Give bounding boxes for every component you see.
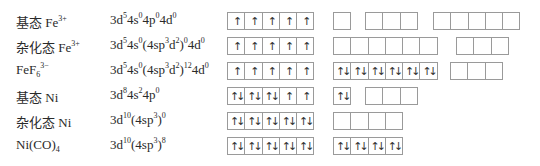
electron-configuration: 3d10(4sp3)0 (110, 112, 166, 128)
single-electron-orbital: ↑ (227, 62, 245, 80)
empty-orbital (456, 37, 474, 55)
orbital-group (333, 37, 438, 55)
paired-electrons-orbital: ↑↓ (350, 62, 368, 80)
species-subscript: 4 (56, 145, 60, 154)
paired-electrons-orbital: ↑↓ (368, 62, 386, 80)
orbital-row: 杂化态 Ni3d10(4sp3)0↑↓↑↓↑↓↑↓↑↓ (0, 109, 540, 134)
empty-orbital (485, 62, 503, 80)
orbital-row: 基态 Fe3+3d54s04p04d0↑↑↑↑↑ (0, 9, 540, 34)
species-label: 杂化态 Ni (16, 112, 71, 131)
electron-configuration: 3d54s0(4sp3d2)04d0 (110, 37, 205, 53)
orbital-group (365, 87, 418, 105)
orbital-group (456, 37, 509, 55)
paired-electrons-orbital: ↑↓ (262, 112, 280, 130)
single-electron-orbital: ↑ (279, 12, 297, 30)
single-electron-orbital: ↑ (244, 37, 262, 55)
empty-orbital (368, 37, 386, 55)
species-label: Ni(CO)4 (16, 137, 60, 153)
paired-electrons-orbital: ↑↓ (385, 62, 403, 80)
empty-orbital (473, 37, 491, 55)
empty-orbital (382, 87, 400, 105)
paired-electrons-orbital: ↑↓ (262, 137, 280, 155)
paired-electrons-orbital: ↑↓ (333, 62, 351, 80)
empty-orbital (385, 112, 403, 130)
electron-configuration: 3d54s0(4sp3d2)124d0 (110, 62, 209, 78)
empty-orbital (385, 37, 403, 55)
single-electron-orbital: ↑ (296, 87, 314, 105)
orbital-row: 杂化态 Fe3+3d54s0(4sp3d2)04d0↑↑↑↑↑ (0, 34, 540, 59)
paired-electrons-orbital: ↑↓ (262, 87, 280, 105)
paired-electrons-orbital: ↑↓ (279, 112, 297, 130)
empty-orbital (419, 37, 437, 55)
paired-electrons-orbital: ↑↓ (350, 137, 368, 155)
single-electron-orbital: ↑ (262, 37, 280, 55)
empty-orbital (485, 12, 503, 30)
paired-electrons-orbital: ↑↓ (296, 112, 314, 130)
single-electron-orbital: ↑ (227, 12, 245, 30)
paired-electrons-orbital: ↑↓ (227, 87, 245, 105)
paired-electrons-orbital: ↑↓ (227, 137, 245, 155)
single-electron-orbital: ↑ (279, 37, 297, 55)
single-electron-orbital: ↑ (227, 37, 245, 55)
paired-electrons-orbital: ↑↓ (402, 62, 420, 80)
paired-electrons-orbital: ↑↓ (227, 112, 245, 130)
electron-configuration: 3d10(4sp3)8 (110, 137, 166, 153)
paired-electrons-orbital: ↑↓ (296, 137, 314, 155)
single-electron-orbital: ↑ (262, 12, 280, 30)
empty-orbital (350, 112, 368, 130)
orbital-group: ↑↑↑↑↑ (227, 12, 314, 30)
orbital-group: ↑↓↑↓↑↓↑↑ (227, 87, 314, 105)
empty-orbital (450, 62, 468, 80)
single-electron-orbital: ↑ (279, 87, 297, 105)
orbital-group: ↑↓↑↓↑↓↑↓↑↓↑↓ (333, 62, 438, 80)
paired-electrons-orbital: ↑↓ (279, 137, 297, 155)
paired-electrons-orbital: ↑↓ (333, 87, 351, 105)
empty-orbital (433, 12, 451, 30)
single-electron-orbital: ↑ (244, 12, 262, 30)
single-electron-orbital: ↑ (244, 62, 262, 80)
species-charge: 3+ (58, 14, 67, 23)
orbital-group: ↑↑↑↑↑ (227, 37, 314, 55)
orbital-group (365, 12, 418, 30)
paired-electrons-orbital: ↑↓ (368, 137, 386, 155)
paired-electrons-orbital: ↑↓ (333, 137, 351, 155)
orbital-group: ↑↓↑↓↑↓↑↓↑↓ (227, 112, 314, 130)
electron-configuration: 3d84s24p0 (110, 87, 160, 103)
empty-orbital (333, 12, 351, 30)
orbital-group: ↑↓↑↓↑↓↑↓ (333, 137, 403, 155)
single-electron-orbital: ↑ (296, 37, 314, 55)
orbital-group (333, 12, 351, 30)
paired-electrons-orbital: ↑↓ (244, 87, 262, 105)
single-electron-orbital: ↑ (296, 12, 314, 30)
paired-electrons-orbital: ↑↓ (385, 137, 403, 155)
species-label: 基态 Ni (16, 87, 58, 106)
empty-orbital (350, 37, 368, 55)
orbital-row: 基态 Ni3d84s24p0↑↓↑↓↑↓↑↑↑↓ (0, 84, 540, 109)
single-electron-orbital: ↑ (296, 62, 314, 80)
species-charge: 3− (40, 61, 49, 70)
empty-orbital (400, 87, 418, 105)
orbital-group (333, 112, 403, 130)
empty-orbital (402, 37, 420, 55)
species-label: 杂化态 Fe3+ (16, 37, 80, 56)
species-name: 基态 Ni (16, 90, 58, 105)
species-name: FeF (16, 62, 36, 77)
empty-orbital (382, 12, 400, 30)
orbital-group: ↑↑↑↑↑ (227, 62, 314, 80)
species-label: 基态 Fe3+ (16, 12, 67, 31)
orbital-row: Ni(CO)43d10(4sp3)8↑↓↑↓↑↓↑↓↑↓↑↓↑↓↑↓↑↓ (0, 134, 540, 159)
empty-orbital (468, 12, 486, 30)
species-charge: 3+ (71, 39, 80, 48)
empty-orbital (502, 12, 520, 30)
orbital-group: ↑↓ (333, 87, 351, 105)
single-electron-orbital: ↑ (262, 62, 280, 80)
empty-orbital (333, 37, 351, 55)
orbital-group (433, 12, 520, 30)
orbital-row: FeF63−3d54s0(4sp3d2)124d0↑↑↑↑↑↑↓↑↓↑↓↑↓↑↓… (0, 59, 540, 84)
orbital-group: ↑↓↑↓↑↓↑↓↑↓ (227, 137, 314, 155)
empty-orbital (450, 12, 468, 30)
species-name: 基态 Fe (16, 15, 58, 30)
paired-electrons-orbital: ↑↓ (244, 137, 262, 155)
single-electron-orbital: ↑ (279, 62, 297, 80)
species-label: FeF63− (16, 62, 49, 78)
